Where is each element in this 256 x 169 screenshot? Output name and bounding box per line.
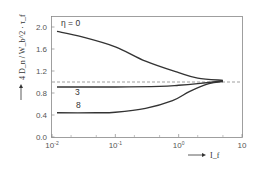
x-tick-label: 10-2 bbox=[45, 140, 59, 150]
x-tick-label: 10-1 bbox=[109, 140, 123, 150]
y-tick-label: 1.6 bbox=[36, 45, 48, 54]
curve-label-eta-0: η = 0 bbox=[61, 18, 80, 28]
plot-frame bbox=[52, 17, 243, 138]
x-tick-label: 100 bbox=[173, 140, 185, 150]
y-tick-label: 1.2 bbox=[36, 67, 48, 76]
y-tick-label: 0.8 bbox=[36, 89, 48, 98]
x-axis-title: I_f bbox=[188, 151, 220, 160]
x-tick-label: 10 bbox=[238, 141, 247, 150]
y-tick-label: 2.0 bbox=[36, 23, 48, 32]
svg-text:4 D_n / W_b^2 · τ_f: 4 D_n / W_b^2 · τ_f bbox=[18, 14, 27, 80]
curve-label-3: 3 bbox=[75, 87, 80, 97]
y-tick-label: 0.4 bbox=[36, 111, 48, 120]
y-axis-title: 4 D_n / W_b^2 · τ_f bbox=[18, 14, 27, 100]
series-line-0 bbox=[57, 31, 223, 80]
chart: 0.00.40.81.21.62.010-210-110010 η = 0 3 … bbox=[0, 0, 256, 169]
curve-label-8: 8 bbox=[76, 100, 81, 110]
svg-text:I_f: I_f bbox=[210, 151, 220, 160]
